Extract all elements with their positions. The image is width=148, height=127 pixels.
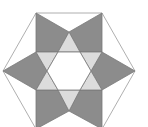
geometric-diagram (0, 0, 148, 127)
hexagram-figure (0, 0, 148, 127)
